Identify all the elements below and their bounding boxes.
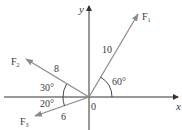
angle-arc-20 (63, 97, 65, 106)
f2-angle-label: 30° (40, 82, 54, 93)
f3-angle-label: 20° (40, 98, 54, 109)
x-axis-label: x (175, 100, 181, 112)
f2-magnitude: 8 (54, 63, 59, 74)
f3-magnitude: 6 (61, 111, 66, 122)
f3-label: F3 (20, 116, 29, 128)
force-diagram: y x 0 F1 F2 F3 10 8 6 60° 30° 20° (0, 0, 182, 130)
angle-arc-60 (101, 77, 113, 97)
f1-label: F1 (142, 11, 151, 23)
angle-arc-30 (63, 84, 67, 97)
diagram-svg: y x 0 F1 F2 F3 10 8 6 60° 30° 20° (0, 0, 182, 130)
f1-angle-label: 60° (112, 76, 126, 87)
f2-label: F2 (11, 56, 20, 68)
f1-magnitude: 10 (102, 44, 112, 55)
y-axis-label: y (78, 3, 84, 15)
origin-label: 0 (91, 101, 96, 112)
